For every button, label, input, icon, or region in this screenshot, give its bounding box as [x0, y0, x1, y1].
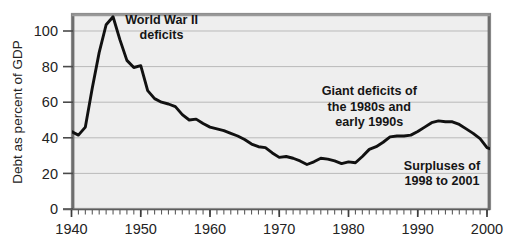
y-tick-label: 100 — [34, 23, 58, 39]
x-tick-label: 1980 — [332, 221, 364, 237]
x-tick-label: 1940 — [55, 221, 87, 237]
x-tick-label: 1950 — [125, 221, 157, 237]
x-tick-label: 1970 — [263, 221, 295, 237]
annotation-line: Surpluses of — [404, 159, 481, 173]
y-tick-label: 0 — [50, 201, 58, 217]
annotation-line: early 1990s — [335, 115, 403, 129]
x-axis: 1940195019601970198019902000 — [55, 210, 503, 237]
annotation-line: World War II — [125, 13, 198, 27]
y-axis-title: Debt as percent of GDP — [10, 40, 25, 183]
chart-container: 020406080100 194019501960197019801990200… — [0, 0, 512, 250]
annotation-line: Giant deficits of — [322, 84, 418, 98]
y-tick-label: 60 — [42, 94, 58, 110]
annotation-line: the 1980s and — [328, 100, 411, 114]
annotation-line: 1998 to 2001 — [405, 174, 480, 188]
x-tick-label: 1990 — [402, 221, 434, 237]
x-tick-label: 2000 — [471, 221, 503, 237]
y-axis: 020406080100 — [34, 23, 73, 217]
y-tick-label: 40 — [42, 130, 58, 146]
y-tick-label: 80 — [42, 59, 58, 75]
annotation-line: deficits — [139, 28, 183, 42]
debt-gdp-line-chart: 020406080100 194019501960197019801990200… — [0, 0, 512, 250]
y-tick-label: 20 — [42, 166, 58, 182]
annotation-surpluses: Surpluses of1998 to 2001 — [404, 159, 481, 189]
x-tick-label: 1960 — [194, 221, 226, 237]
